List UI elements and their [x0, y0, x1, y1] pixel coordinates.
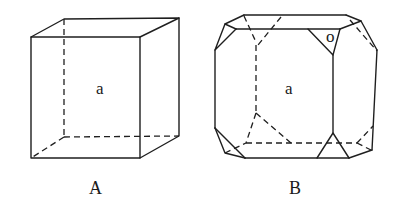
figure-a-caption: A — [89, 178, 102, 198]
cube-face-label-a-b: a — [285, 79, 293, 98]
b-hidden-bottom-left-link — [225, 143, 246, 153]
b-hidden-bottom-diagonal-left — [246, 113, 256, 143]
b-bottom-front-triangle — [317, 133, 349, 158]
b-hidden-bottom-diagonal-right — [256, 113, 291, 143]
figure-b-cube-octahedron: o a B — [215, 15, 377, 198]
octahedral-face-label-o: o — [326, 27, 335, 46]
b-bottom-left-slope — [215, 128, 245, 158]
b-hidden-top-diagonal — [258, 17, 281, 45]
cube-face-label-a: a — [96, 79, 104, 98]
cube-hidden-bottom-depth-edge — [31, 137, 64, 158]
figure-a-cube: a A — [31, 18, 179, 198]
b-bottom-right-edge — [349, 150, 372, 158]
figure-b-caption: B — [289, 178, 301, 198]
b-octahedral-face-triangle — [308, 29, 340, 55]
b-top-left-corner-face — [225, 15, 244, 29]
cube-hidden-bottom-back-edge — [64, 136, 179, 137]
b-right-outer-edge — [372, 50, 377, 150]
b-top-right-corner-edges — [340, 15, 361, 29]
b-hidden-bottom-right-up — [357, 126, 373, 143]
b-hidden-bottom-right-down — [357, 143, 371, 150]
cube-right-edges — [140, 18, 179, 158]
cube-top-edges — [31, 18, 179, 37]
crystal-forms-diagram: a A — [0, 0, 397, 211]
cube-front-face — [31, 37, 140, 158]
